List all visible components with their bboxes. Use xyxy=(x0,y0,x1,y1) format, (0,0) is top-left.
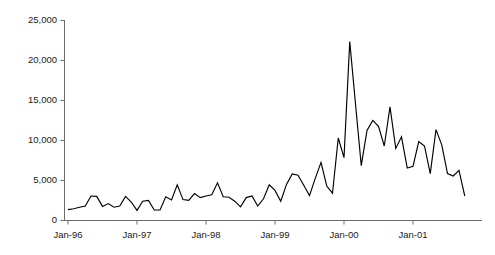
x-axis-tick-marks xyxy=(68,221,413,225)
x-axis-tick-label: Jan-00 xyxy=(329,229,358,240)
y-axis-tick-label: 10,000 xyxy=(28,134,57,145)
y-axis-tick-label: 15,000 xyxy=(28,94,57,105)
data-series-line xyxy=(68,42,465,211)
y-axis-tick-label: 25,000 xyxy=(28,14,57,25)
y-axis-tick-labels: 05,00010,00015,00020,00025,000 xyxy=(28,14,57,225)
chart-container: 05,00010,00015,00020,00025,000 Jan-96Jan… xyxy=(0,0,495,255)
x-axis-tick-label: Jan-99 xyxy=(260,229,289,240)
x-axis-tick-label: Jan-97 xyxy=(122,229,151,240)
x-axis-tick-label: Jan-96 xyxy=(53,229,82,240)
x-axis-tick-label: Jan-98 xyxy=(191,229,220,240)
y-axis-tick-label: 5,000 xyxy=(33,174,57,185)
x-axis-tick-labels: Jan-96Jan-97Jan-98Jan-99Jan-00Jan-01 xyxy=(53,229,427,240)
y-axis-tick-label: 0 xyxy=(52,214,57,225)
y-axis-tick-label: 20,000 xyxy=(28,54,57,65)
line-chart: 05,00010,00015,00020,00025,000 Jan-96Jan… xyxy=(0,0,495,255)
x-axis-tick-label: Jan-01 xyxy=(398,229,427,240)
y-axis-tick-marks xyxy=(61,21,65,221)
